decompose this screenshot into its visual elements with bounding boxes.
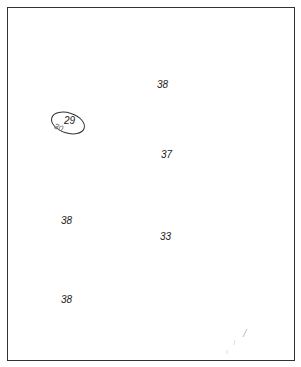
spot-height-label: 37 bbox=[161, 150, 172, 160]
faint-mark bbox=[243, 329, 247, 337]
spot-height-label: 38 bbox=[61, 295, 72, 305]
contour-overlay bbox=[0, 0, 301, 367]
spot-height-label: 29 bbox=[64, 116, 75, 126]
spot-height-label: 38 bbox=[157, 80, 168, 90]
spot-height-label: 38 bbox=[61, 216, 72, 226]
faint-mark bbox=[234, 340, 235, 345]
spot-height-label: 33 bbox=[160, 232, 171, 242]
